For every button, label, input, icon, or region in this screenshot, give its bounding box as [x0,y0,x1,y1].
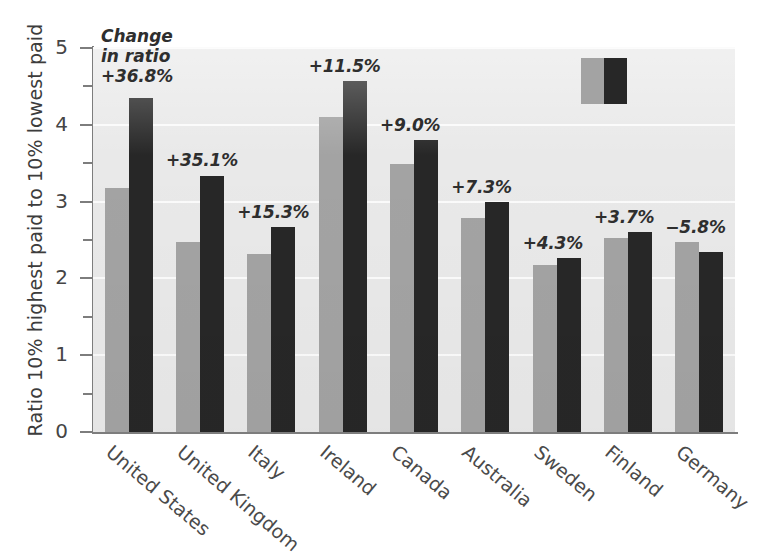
bar-united-kingdom-later [200,176,224,433]
y-tick-minor-1.5 [83,316,92,318]
legend-swatch-earlier [581,58,604,104]
bar-germany-later [699,252,723,432]
annotation-united-states: +36.8% [101,66,173,86]
bar-germany-earlier [675,242,699,432]
bar-australia-later [485,202,509,432]
x-tick-label-finland: Finland [602,442,666,500]
y-tick-2 [80,277,92,279]
y-tick-label-0: 0 [28,421,68,441]
plot-area [93,48,735,432]
y-tick-label-5: 5 [28,37,68,57]
annotation-caption: Change in ratio [101,26,173,66]
bar-sweden-later [557,258,581,432]
annotation-germany: −5.8% [665,217,725,237]
caption-line-1: Change [101,26,173,46]
annotation-sweden: +4.3% [523,233,583,253]
y-tick-minor-4.5 [83,85,92,87]
annotation-canada: +9.0% [380,115,440,135]
y-tick-label-4: 4 [28,114,68,134]
x-tick-label-ireland: Ireland [316,442,379,499]
y-tick-minor-0.5 [83,393,92,395]
bar-united-kingdom-earlier [176,242,200,432]
bar-united-states-later [129,98,153,432]
legend-swatch [581,58,627,104]
annotation-ireland: +11.5% [309,56,381,76]
y-tick-label-1: 1 [28,344,68,364]
bar-finland-earlier [604,238,628,432]
caption-line-2: in ratio [101,46,173,66]
chart-figure: Ratio 10% highest paid to 10% lowest pai… [0,0,780,558]
bar-italy-later [271,227,295,432]
bar-sweden-earlier [533,265,557,432]
y-tick-4 [80,124,92,126]
x-axis-line [92,432,738,434]
y-tick-label-2: 2 [28,267,68,287]
annotation-australia: +7.3% [451,177,511,197]
bar-australia-earlier [461,218,485,432]
y-tick-1 [80,354,92,356]
bar-canada-later [414,140,438,432]
y-tick-minor-3.5 [83,162,92,164]
x-tick-label-united-kingdom: United Kingdom [174,442,303,555]
y-tick-label-3: 3 [28,191,68,211]
annotation-united-kingdom: +35.1% [166,150,238,170]
y-tick-minor-2.5 [83,239,92,241]
bar-ireland-later [343,81,367,432]
x-tick-label-germany: Germany [673,442,752,513]
y-tick-5 [80,47,92,49]
x-tick-label-sweden: Sweden [530,442,600,505]
x-tick-label-canada: Canada [388,442,456,503]
legend-swatch-later [604,58,627,104]
bar-united-states-earlier [105,188,129,432]
x-tick-label-australia: Australia [459,442,536,511]
bar-italy-earlier [247,254,271,432]
annotation-italy: +15.3% [237,202,309,222]
bar-finland-later [628,232,652,432]
annotation-finland: +3.7% [594,207,654,227]
bar-canada-earlier [390,164,414,432]
bar-ireland-earlier [319,117,343,432]
y-tick-3 [80,201,92,203]
gridline-5 [93,47,735,49]
x-tick-label-italy: Italy [245,442,289,483]
y-axis-title: Ratio 10% highest paid to 10% lowest pai… [22,10,48,450]
y-tick-0 [80,431,92,433]
